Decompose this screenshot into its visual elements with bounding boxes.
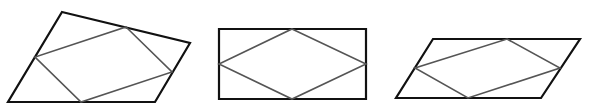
midpoint-rhombus [219,29,366,99]
shape-parallelogram [396,39,580,98]
diagram-canvas [0,0,593,112]
shape-general-quadrilateral [8,12,190,102]
outer-parallelogram [396,39,580,98]
outer-rectangle [219,29,366,99]
midpoint-quadrilateral [35,27,172,102]
midpoint-parallelogram [415,39,560,98]
shape-rectangle [219,29,366,99]
